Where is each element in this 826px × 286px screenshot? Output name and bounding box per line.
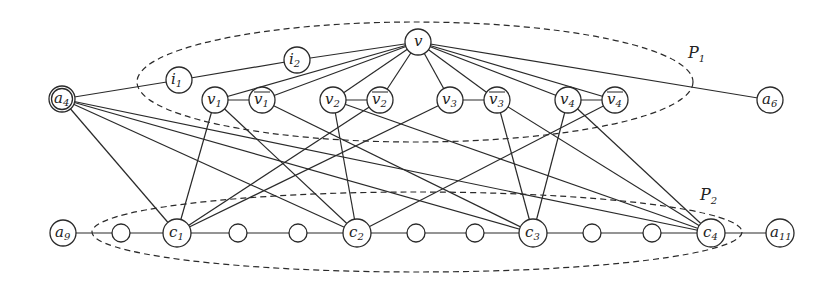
node-s4 [407,224,425,242]
node-v1: v1 [202,87,228,113]
node-label: v [414,32,423,50]
node-s6 [583,224,601,242]
node-circle [289,224,307,242]
edge-i1-i2 [179,60,297,80]
node-v: v [405,29,431,55]
node-circle [112,224,130,242]
edge-nv1-c3 [262,100,533,233]
region-p1-label: P1 [687,43,705,64]
node-nv3: v3 [484,87,510,113]
node-nv4: v4 [602,87,628,113]
node-v2: v2 [320,87,346,113]
node-a9: a9 [50,220,76,246]
node-circle [643,224,661,242]
node-v4: v4 [555,87,581,113]
node-s3 [289,224,307,242]
node-a6: a6 [757,87,783,113]
region-p2-label: P2 [699,185,717,206]
node-s1 [112,224,130,242]
edge-v4-c3 [533,100,568,233]
node-a4: a4 [49,86,75,112]
node-circle [229,224,247,242]
node-v3: v3 [437,87,463,113]
node-circle [407,224,425,242]
node-circle [583,224,601,242]
edge-v-a6 [418,42,770,100]
region-label-layer: P1P2 [687,43,717,206]
graph-diagram: vi1i2a4v1v1v2v2v3v3v4v4a6a9c1c2c3c4a11 P… [0,0,826,286]
edge-v4-c4 [568,100,711,233]
node-nv2: v2 [367,87,393,113]
node-circle [466,224,484,242]
edge-a4-i1 [62,80,179,99]
edge-i2-v [297,42,418,60]
edge-nv4-c2 [357,100,615,233]
node-s7 [643,224,661,242]
node-c3: c3 [519,219,547,247]
edge-nv3-c4 [497,100,711,233]
node-nv1: v1 [249,87,275,113]
edge-nv3-c3 [497,100,533,233]
node-i2: i2 [284,47,310,73]
node-a11: a11 [766,219,794,247]
edge-nv2-c1 [177,100,380,233]
edge-v1-c2 [215,100,357,233]
node-c1: c1 [163,219,191,247]
node-s2 [229,224,247,242]
node-c2: c2 [343,219,371,247]
node-i1: i1 [166,67,192,93]
node-s5 [466,224,484,242]
node-c4: c4 [697,219,725,247]
edge-v2-c2 [333,100,357,233]
